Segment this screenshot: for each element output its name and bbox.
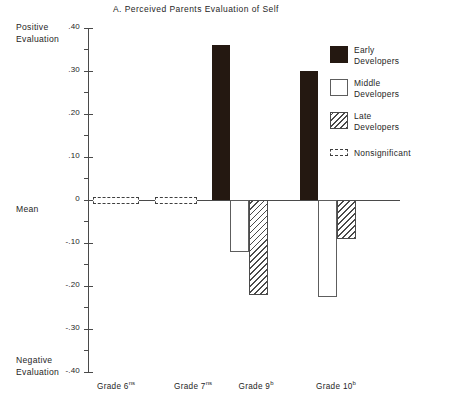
dashed-outline-swatch-icon xyxy=(330,149,348,156)
y-tick-label: .40 xyxy=(50,22,80,31)
y-tick-label: -.40 xyxy=(50,366,80,375)
x-tick-label-grade-6-sup: ns xyxy=(129,380,135,386)
y-tick-minor xyxy=(84,49,89,50)
x-tick-label-grade-9-text: Grade 9 xyxy=(238,382,270,391)
y-tick-minor xyxy=(84,178,89,179)
legend-item-middle-developers: Middle Developers xyxy=(330,78,456,99)
y-tick-label: -.10 xyxy=(50,237,80,246)
x-tick-label-grade-7-text: Grade 7 xyxy=(174,382,206,391)
legend-label-early-developers: Early Developers xyxy=(354,45,399,66)
x-tick-label-grade-7-sup: ns xyxy=(206,380,212,386)
y-tick-label: 0 xyxy=(50,194,80,203)
y-tick-minor xyxy=(84,221,89,222)
y-tick-major xyxy=(84,372,93,373)
y-tick-minor xyxy=(84,264,89,265)
y-tick-minor xyxy=(84,307,89,308)
y-tick-minor xyxy=(84,350,89,351)
page-title: A. Perceived Parents Evaluation of Self xyxy=(113,4,279,14)
y-tick-major xyxy=(84,200,93,201)
bar-grade10-early-developers xyxy=(300,71,318,200)
stippled-swatch-icon xyxy=(330,79,348,96)
y-tick-label: -.30 xyxy=(50,323,80,332)
x-tick-label-grade-10: Grade 10b xyxy=(316,380,356,391)
bar-grade10-late-developers xyxy=(337,200,356,239)
legend: Early Developers Middle Developers Late … xyxy=(330,45,456,174)
x-tick-label-grade-9: Grade 9b xyxy=(238,380,273,391)
bar-grade9-late-developers xyxy=(249,200,268,295)
y-tick-label: .20 xyxy=(50,108,80,117)
legend-label-late-developers: Late Developers xyxy=(354,111,399,132)
y-tick-label: .30 xyxy=(50,65,80,74)
y-tick-minor xyxy=(84,135,89,136)
hatched-swatch-icon xyxy=(330,112,348,129)
axis-caption-mean: Mean xyxy=(16,204,39,216)
legend-label-middle-developers: Middle Developers xyxy=(354,78,399,99)
y-tick-minor xyxy=(84,92,89,93)
x-tick-label-grade-6: Grade 6ns xyxy=(97,380,135,391)
y-tick-label: -.20 xyxy=(50,280,80,289)
y-tick-major xyxy=(84,71,93,72)
x-tick-label-grade-10-sup: b xyxy=(353,380,356,386)
chart-figure: A. Perceived Parents Evaluation of Self … xyxy=(0,0,457,419)
bar-grade6-nonsignificant xyxy=(93,197,139,204)
bar-grade10-middle-developers xyxy=(318,200,337,297)
legend-item-nonsignificant: Nonsignificant xyxy=(330,144,456,162)
x-tick-label-grade-9-sup: b xyxy=(270,380,273,386)
bar-grade7-nonsignificant xyxy=(155,197,197,204)
bar-grade9-early-developers xyxy=(212,45,230,200)
y-tick-label: .10 xyxy=(50,151,80,160)
axis-caption-positive-line2: Evaluation xyxy=(16,34,59,44)
legend-label-nonsignificant: Nonsignificant xyxy=(354,144,411,159)
legend-item-late-developers: Late Developers xyxy=(330,111,456,132)
y-tick-major xyxy=(84,243,93,244)
x-tick-label-grade-6-text: Grade 6 xyxy=(97,382,129,391)
y-tick-major xyxy=(84,114,93,115)
y-tick-major xyxy=(84,157,93,158)
x-tick-label-grade-7: Grade 7ns xyxy=(174,380,212,391)
legend-item-early-developers: Early Developers xyxy=(330,45,456,66)
axis-caption-positive-line1: Positive xyxy=(16,22,49,32)
bar-grade9-middle-developers xyxy=(230,200,249,252)
x-tick-label-grade-10-text: Grade 10 xyxy=(316,382,353,391)
solid-black-swatch-icon xyxy=(330,46,348,63)
axis-caption-negative-line1: Negative xyxy=(16,355,52,365)
y-tick-major xyxy=(84,286,93,287)
y-tick-major xyxy=(84,329,93,330)
y-tick-major xyxy=(84,28,93,29)
